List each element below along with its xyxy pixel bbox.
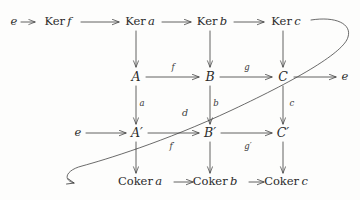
node-ker-f: Ker f: [44, 16, 71, 28]
label-map-f: f: [171, 62, 174, 72]
label-map-a: a: [139, 98, 144, 108]
label-map-f-prime: f′: [169, 141, 174, 151]
node-ker-a: Ker a: [125, 16, 155, 28]
node-ker-b: Ker b: [197, 16, 227, 28]
node-B-prime: B′: [204, 127, 216, 140]
label-map-b: b: [213, 98, 218, 108]
label-map-g-prime: g′: [244, 141, 251, 151]
node-e-top-left: e: [11, 16, 18, 28]
node-C-prime: C′: [277, 127, 289, 140]
commutative-diagram: e Ker f Ker a Ker b Ker c A B C e e A′ B…: [0, 0, 360, 200]
diagram-arrows-layer: [0, 0, 360, 200]
node-coker-c: Coker c: [264, 176, 308, 188]
node-B: B: [205, 71, 214, 84]
label-map-g: g: [244, 62, 249, 72]
node-coker-a: Coker a: [118, 176, 162, 188]
node-A-prime: A′: [131, 127, 143, 140]
node-C: C: [278, 71, 288, 84]
node-coker-b: Coker b: [193, 176, 238, 188]
node-e-row2-right: e: [342, 71, 349, 83]
node-e-row3-left: e: [75, 127, 82, 139]
snake-connecting-arrow: [67, 19, 349, 183]
node-A: A: [131, 71, 140, 84]
label-map-c: c: [290, 98, 295, 108]
node-ker-c: Ker c: [271, 16, 300, 28]
label-connecting-map-d: d: [182, 107, 188, 118]
